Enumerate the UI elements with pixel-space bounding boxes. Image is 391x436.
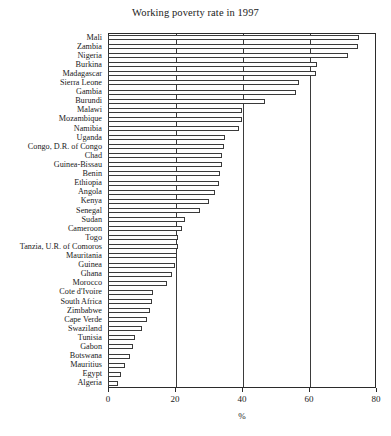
y-axis-label: Gabon	[0, 342, 105, 351]
bar	[108, 35, 359, 40]
bar	[108, 263, 175, 268]
bar	[108, 171, 220, 176]
bar	[108, 117, 242, 122]
x-tick-60	[309, 388, 310, 392]
x-tick-label-20: 20	[160, 394, 190, 404]
bar	[108, 90, 296, 95]
y-axis-label: Tunisia	[0, 333, 105, 342]
y-axis-label: South Africa	[0, 297, 105, 306]
y-axis-label: Namibia	[0, 124, 105, 133]
bar	[108, 44, 358, 49]
x-tick-label-0: 0	[93, 394, 123, 404]
y-axis-label: Cote d'Ivoire	[0, 287, 105, 296]
y-axis-label: Ghana	[0, 269, 105, 278]
y-axis-label: Sudan	[0, 215, 105, 224]
y-axis-label: Swaziland	[0, 324, 105, 333]
bar	[108, 272, 172, 277]
bar	[108, 354, 130, 359]
bar	[108, 235, 178, 240]
bar	[108, 162, 222, 167]
bar	[108, 71, 316, 76]
bar	[108, 381, 118, 386]
x-axis-title: %	[108, 411, 376, 421]
y-axis-label: Angola	[0, 187, 105, 196]
chart-figure: Working poverty rate in 1997 MaliZambiaN…	[0, 0, 391, 436]
bar	[108, 208, 200, 213]
y-axis-label: Guinea	[0, 260, 105, 269]
y-axis-label: Madagascar	[0, 69, 105, 78]
bar	[108, 344, 133, 349]
y-axis-label: Kenya	[0, 196, 105, 205]
y-axis-label: Cape Verde	[0, 315, 105, 324]
bar	[108, 199, 209, 204]
bar	[108, 108, 242, 113]
y-axis-label: Chad	[0, 151, 105, 160]
bar	[108, 244, 178, 249]
y-axis-label: Togo	[0, 233, 105, 242]
y-axis-category-labels: MaliZambiaNigeriaBurkinaMadagascarSierra…	[0, 33, 105, 388]
y-axis-label: Malawi	[0, 105, 105, 114]
y-axis-label: Egypt	[0, 369, 105, 378]
bar	[108, 372, 121, 377]
bar	[108, 53, 348, 58]
bar	[108, 181, 219, 186]
bar	[108, 126, 239, 131]
y-axis-label: Mozambique	[0, 114, 105, 123]
bar	[108, 217, 185, 222]
y-axis-label: Mauritius	[0, 360, 105, 369]
y-axis-label: Benin	[0, 169, 105, 178]
bar	[108, 299, 152, 304]
bar	[108, 99, 265, 104]
bar	[108, 80, 299, 85]
bar	[108, 363, 125, 368]
y-axis-label: Guinea-Bissau	[0, 160, 105, 169]
bar	[108, 144, 224, 149]
bar	[108, 326, 142, 331]
y-axis-label: Senegal	[0, 206, 105, 215]
bar	[108, 153, 222, 158]
y-axis-label: Botswana	[0, 351, 105, 360]
x-tick-40	[242, 388, 243, 392]
bar	[108, 335, 135, 340]
y-axis-label: Nigeria	[0, 51, 105, 60]
y-axis-label: Ethiopia	[0, 178, 105, 187]
y-axis-label: Burundi	[0, 96, 105, 105]
y-axis-label: Cameroon	[0, 224, 105, 233]
y-axis-label: Zambia	[0, 42, 105, 51]
bar	[108, 135, 225, 140]
y-axis-label: Algeria	[0, 378, 105, 387]
y-axis-label: Morocco	[0, 278, 105, 287]
y-axis-label: Sierra Leone	[0, 78, 105, 87]
y-axis-label: Uganda	[0, 133, 105, 142]
bar	[108, 308, 150, 313]
x-tick-label-60: 60	[294, 394, 324, 404]
y-axis-label: Mauritania	[0, 251, 105, 260]
bar	[108, 62, 317, 67]
page-title: Working poverty rate in 1997	[0, 7, 391, 18]
bar-series	[108, 33, 376, 388]
y-axis-label: Burkina	[0, 60, 105, 69]
y-axis-label: Mali	[0, 33, 105, 42]
bar	[108, 317, 147, 322]
bar	[108, 281, 167, 286]
y-axis-label: Gambia	[0, 87, 105, 96]
x-tick-0	[108, 388, 109, 392]
x-tick-80	[376, 388, 377, 392]
bar	[108, 253, 177, 258]
bar	[108, 290, 153, 295]
y-axis-label: Congo, D.R. of Congo	[0, 142, 105, 151]
x-tick-label-40: 40	[227, 394, 257, 404]
x-tick-20	[175, 388, 176, 392]
y-axis-label: Zimbabwe	[0, 306, 105, 315]
bar	[108, 190, 215, 195]
y-axis-label: Tanzia, U.R. of Comoros	[0, 242, 105, 251]
bar	[108, 226, 182, 231]
x-tick-label-80: 80	[361, 394, 391, 404]
